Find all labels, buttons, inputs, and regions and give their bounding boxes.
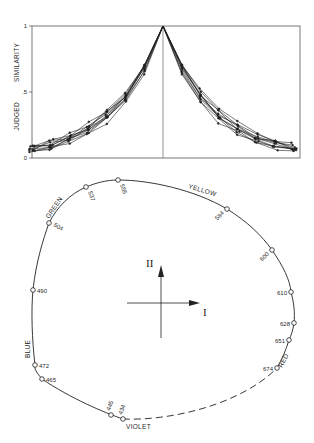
data-point	[217, 117, 219, 119]
data-point	[107, 116, 109, 118]
wavelength-label: 674	[263, 366, 274, 372]
data-point	[49, 145, 51, 147]
data-point	[28, 149, 30, 151]
wavelength-label: 628	[280, 321, 291, 327]
wavelength-marker	[116, 178, 121, 183]
similarity-chart: 1 .5 0 JUDGED SIMILARITY	[13, 23, 300, 161]
gradient-line	[163, 26, 291, 143]
label-yellow: YELLOW	[188, 182, 218, 197]
gradient-line	[163, 26, 294, 151]
data-point	[69, 132, 71, 134]
data-point	[200, 101, 202, 103]
wavelength-label: 434	[117, 403, 126, 415]
label-red: RED	[277, 352, 290, 368]
data-point	[181, 66, 183, 68]
gradient-line	[163, 26, 295, 149]
label-blue: BLUE	[24, 339, 31, 358]
data-point	[217, 115, 219, 117]
wavelength-marker	[292, 321, 297, 326]
data-point	[88, 121, 90, 123]
data-point	[236, 120, 238, 122]
wavelength-marker	[121, 417, 126, 422]
axis-label-I: I	[203, 306, 207, 318]
data-point	[69, 135, 71, 137]
data-point	[143, 67, 145, 69]
data-point	[181, 68, 183, 70]
gradient-line	[163, 26, 295, 147]
gradient-line	[33, 26, 163, 150]
data-point	[29, 151, 31, 153]
gradient-line	[163, 26, 297, 149]
label-green: GREEN	[44, 195, 64, 219]
ylabel-similarity: SIMILARITY	[13, 43, 20, 82]
data-point	[125, 96, 127, 98]
wavelength-label: 537	[87, 190, 96, 202]
wavelength-label: 472	[39, 363, 50, 369]
wavelength-marker	[270, 248, 275, 253]
data-point	[49, 149, 51, 151]
data-point	[293, 150, 295, 152]
gradient-line	[163, 26, 296, 150]
data-point	[255, 142, 257, 144]
data-point	[32, 145, 34, 147]
wavelength-marker	[33, 363, 38, 368]
wavelength-marker	[109, 413, 114, 418]
tick-1: 1	[24, 23, 28, 29]
tick-half: .5	[22, 89, 28, 95]
wavelength-marker	[84, 185, 89, 190]
gradient-line	[30, 26, 163, 149]
figure: 1 .5 0 JUDGED SIMILARITY 555537504490472…	[0, 0, 314, 443]
wavelength-marker	[47, 221, 52, 226]
gradient-line	[29, 26, 163, 152]
color-circle: 5555375044904724654454346746516286106005…	[24, 178, 296, 430]
data-point	[105, 111, 107, 113]
wavelength-label: 555	[119, 183, 128, 195]
data-point	[236, 134, 238, 136]
wavelength-label: 490	[37, 288, 48, 294]
data-point	[237, 124, 239, 126]
data-point	[49, 141, 51, 143]
data-point	[124, 92, 126, 94]
data-point	[199, 88, 201, 90]
data-point	[274, 140, 276, 142]
data-point	[200, 95, 202, 97]
arrow-II-icon	[158, 265, 164, 277]
wavelength-label: 610	[277, 290, 288, 296]
wavelength-label: 504	[53, 222, 65, 233]
wavelength-marker	[225, 207, 230, 212]
wavelength-label: 651	[275, 338, 286, 344]
data-point	[143, 73, 145, 75]
wavelength-marker	[40, 377, 45, 382]
purple-line-dashed	[123, 368, 277, 419]
wavelength-label: 445	[105, 399, 114, 411]
data-point	[106, 123, 108, 125]
label-violet: VIOLET	[126, 423, 151, 430]
data-point	[52, 138, 54, 140]
data-point	[69, 139, 71, 141]
gradient-line	[35, 26, 163, 151]
data-point	[296, 148, 298, 150]
data-point	[257, 138, 259, 140]
data-point	[87, 128, 89, 130]
data-point	[273, 146, 275, 148]
data-point	[32, 150, 34, 152]
data-point	[294, 146, 296, 148]
data-point	[199, 97, 201, 99]
data-point	[200, 91, 202, 93]
color-locus	[32, 180, 294, 419]
data-point	[30, 145, 32, 147]
gradient-line	[29, 26, 163, 150]
gradient-line	[30, 26, 163, 146]
data-point	[69, 137, 71, 139]
data-point	[69, 143, 71, 145]
data-point	[257, 134, 259, 136]
gradient-line	[163, 26, 294, 151]
gradient-line	[33, 26, 163, 146]
data-point	[274, 143, 276, 145]
data-point	[217, 109, 219, 111]
wavelength-marker	[287, 338, 292, 343]
axis-label-II: II	[146, 257, 154, 269]
wavelength-marker	[31, 288, 36, 293]
wavelength-label: 584	[214, 209, 226, 221]
data-point	[292, 144, 294, 146]
